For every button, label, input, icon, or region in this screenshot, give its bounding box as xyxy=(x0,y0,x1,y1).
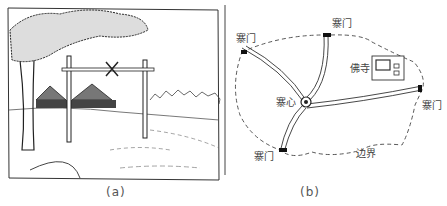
gate-e-label: 寨门 xyxy=(422,97,442,112)
temple-label: 佛寺 xyxy=(350,60,370,75)
boundary-label: 边界 xyxy=(356,145,376,160)
gate-n-marker xyxy=(323,33,331,37)
village-gate-sketch xyxy=(0,0,222,206)
gate-sw-label: 寨门 xyxy=(254,148,274,163)
panel-b-diagram: 寨门 寨门 寨门 寨门 寨心 佛寺 边界 (b) xyxy=(222,0,447,206)
gate-sw-marker xyxy=(279,148,287,152)
panel-b-caption: (b) xyxy=(300,185,320,199)
panel-a-sketch: (a) xyxy=(0,0,222,206)
gate-nw-marker xyxy=(241,50,247,54)
panel-a-caption: (a) xyxy=(106,185,126,199)
gate-nw-label: 寨门 xyxy=(236,30,256,45)
center-label: 寨心 xyxy=(276,94,296,109)
gate-n-label: 寨门 xyxy=(332,15,352,30)
gate-e-marker xyxy=(418,85,422,92)
